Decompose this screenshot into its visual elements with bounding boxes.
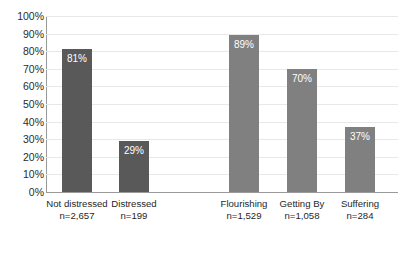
gridline [46,51,398,52]
plot-area: 81% 29% 89% 70% 37% [46,16,398,192]
y-axis-tick-label: 100% [2,11,44,22]
gridline [46,86,398,87]
bar-value-label: 29% [119,146,149,156]
bar-not-distressed: 81% [62,49,92,192]
gridline [46,16,398,17]
bar-distressed: 29% [119,141,149,192]
y-axis-tick-label: 90% [2,28,44,39]
bar-value-label: 89% [229,40,259,50]
y-axis-tick-label: 80% [2,46,44,57]
y-axis-tick-label: 40% [2,116,44,127]
bar-value-label: 37% [345,132,375,142]
bar-chart: 100% 90% 80% 70% 60% 50% 40% 30% 20% 10%… [0,0,403,257]
gridline [46,34,398,35]
gridline [46,69,398,70]
y-axis-tick-label: 50% [2,99,44,110]
y-axis-tick-label: 60% [2,81,44,92]
bar-value-label: 81% [62,54,92,64]
y-axis-tick-label: 30% [2,134,44,145]
y-axis-tick-label: 20% [2,152,44,163]
x-axis-category-label-distressed: Distressed n=199 [98,198,170,221]
bar-suffering: 37% [345,127,375,192]
y-axis-tick-label: 10% [2,169,44,180]
y-axis-tick-labels: 100% 90% 80% 70% 60% 50% 40% 30% 20% 10%… [0,16,44,192]
bar-value-label: 70% [287,74,317,84]
x-axis-category-label-suffering: Suffering n=284 [324,198,396,221]
gridline [46,104,398,105]
x-axis-baseline [46,192,398,193]
gridline [46,122,398,123]
bar-flourishing: 89% [229,35,259,192]
y-axis-tick-label: 70% [2,64,44,75]
bar-getting-by: 70% [287,69,317,192]
y-axis-tick-label: 0% [2,187,44,198]
